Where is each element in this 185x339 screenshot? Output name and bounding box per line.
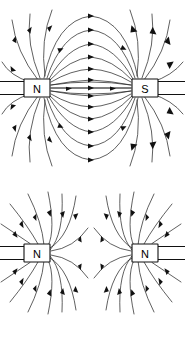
bottom-left-pole-label: N (33, 248, 41, 260)
top-right-magnet: S (132, 79, 185, 97)
bottom-left-magnet: N (0, 244, 50, 262)
magnetic-field-figure: N S (0, 0, 185, 339)
panel-attraction: N S (0, 10, 185, 166)
top-left-pole-label: N (33, 83, 41, 95)
panel-repulsion: N N (0, 192, 185, 314)
bottom-right-pole-label: N (141, 248, 149, 260)
top-left-magnet: N (0, 79, 50, 97)
figure-canvas: N S (0, 0, 185, 339)
top-right-pole-label: S (141, 83, 148, 95)
bottom-right-magnet: N (132, 244, 185, 262)
